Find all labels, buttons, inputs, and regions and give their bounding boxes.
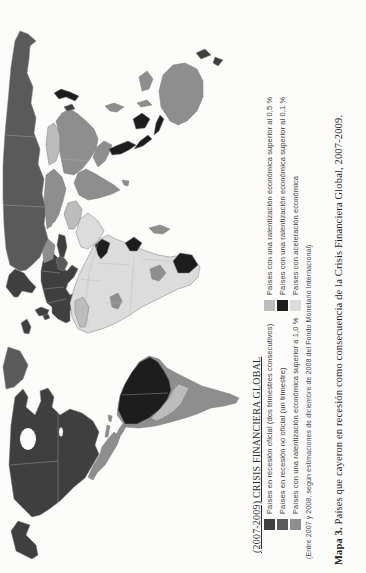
legend-label: Países con una ralentización económica s…	[291, 318, 300, 514]
region-central-asia	[44, 169, 66, 229]
region-korea	[64, 104, 75, 111]
hudson-bay	[20, 428, 36, 450]
region-japan	[54, 89, 79, 101]
region-java	[154, 115, 164, 135]
caspian-sea	[52, 222, 66, 229]
region-greenland	[3, 347, 28, 389]
legend-label: Países con aceleración económica	[291, 176, 300, 295]
region-hispaniola	[108, 415, 112, 422]
legend-swatch-aceleracion	[290, 300, 301, 311]
legend-swatch-ralentizacion-0-1	[277, 300, 288, 311]
region-thailand-malaysia	[109, 141, 136, 155]
legend-swatch-recesion-no-oficial	[277, 519, 288, 530]
region-alaska	[11, 521, 38, 559]
region-australia	[159, 63, 203, 125]
region-new-zealand-south	[213, 57, 223, 66]
legend-label: Países en recesión oficial (dos trimestr…	[265, 324, 274, 514]
region-new-zealand-north	[196, 49, 211, 59]
world-map-svg	[2, 28, 250, 565]
region-philippines	[105, 103, 124, 112]
region-iceland	[21, 319, 31, 334]
region-scandinavia	[6, 269, 36, 297]
legend-label: Países con una ralentización económica s…	[278, 97, 287, 295]
rotated-figure-stage: (2007-2009) CRISIS FINANCIERA GLOBAL Paí…	[0, 0, 366, 573]
region-china	[56, 109, 98, 175]
scanned-book-page: (2007-2009) CRISIS FINANCIERA GLOBAL Paí…	[0, 0, 366, 573]
region-russia	[3, 31, 48, 271]
region-cuba	[105, 425, 110, 437]
region-india	[74, 169, 120, 200]
legend-label: Países en recesión no oficial (un trimes…	[278, 367, 287, 514]
region-sumatra	[134, 135, 152, 149]
region-sri-lanka	[122, 180, 129, 186]
region-sulawesi	[137, 100, 152, 107]
figure-caption-text: Países que cayeron en recesión como cons…	[333, 115, 344, 527]
legend-label: Países con una ralentización económica s…	[265, 97, 274, 295]
region-new-guinea	[139, 71, 153, 91]
legend-footnote: (Entre 2007 y 2008, según estimaciones d…	[305, 245, 312, 559]
region-canada-usa	[9, 388, 99, 517]
legend-title: (2007-2009) CRISIS FINANCIERA GLOBAL	[251, 357, 262, 553]
world-map	[2, 28, 250, 565]
figure-caption: Mapa 3. Países que cayeron en recesión c…	[333, 31, 344, 565]
region-borneo	[133, 113, 150, 129]
legend-swatch-recesion-oficial	[264, 519, 275, 530]
legend-swatch-ralentizacion-1-0	[290, 519, 301, 530]
region-balkans	[56, 255, 68, 271]
legend-swatch-ralentizacion-0-5	[264, 300, 275, 311]
region-madagascar	[149, 225, 170, 234]
figure-caption-number: Mapa 3.	[333, 527, 344, 565]
region-turkey	[57, 234, 67, 257]
great-lakes	[59, 428, 63, 437]
